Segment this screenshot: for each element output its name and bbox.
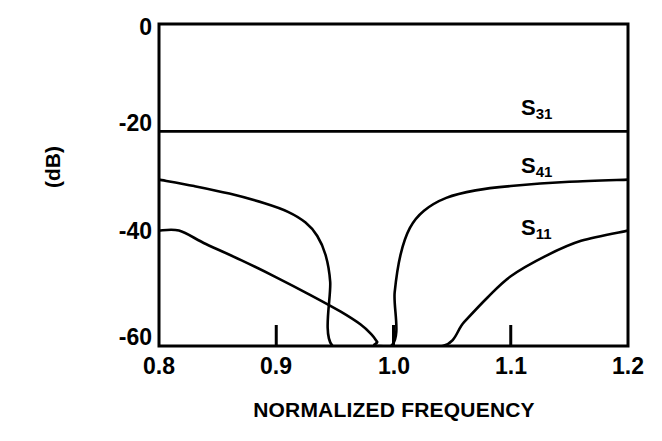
curve-label-s11: S11 bbox=[521, 217, 552, 239]
x-tick-label-1-0: 1.0 bbox=[364, 355, 424, 378]
y-tick-label-minus60: -60 bbox=[92, 326, 152, 349]
x-axis-title: NORMALIZED FREQUENCY bbox=[159, 398, 629, 422]
x-tick-label-0-8: 0.8 bbox=[129, 355, 189, 378]
curve-label-s11-base: S bbox=[521, 215, 536, 240]
y-axis-title: (dB) bbox=[41, 112, 65, 222]
x-tick-label-1-1: 1.1 bbox=[481, 355, 541, 378]
curve-label-s41-base: S bbox=[521, 153, 536, 178]
curve-label-s31-base: S bbox=[521, 95, 536, 120]
y-tick-label-minus40: -40 bbox=[92, 220, 152, 243]
curve-label-s31: S31 bbox=[521, 97, 552, 119]
curve-label-s31-sub: 31 bbox=[536, 105, 553, 122]
sparameter-chart-figure: 0 -20 -40 -60 0.8 0.9 1.0 1.1 1.2 NORMAL… bbox=[0, 0, 662, 441]
curve-label-s11-sub: 11 bbox=[536, 225, 552, 242]
x-tick-label-0-9: 0.9 bbox=[246, 355, 306, 378]
curve-label-s41-sub: 41 bbox=[536, 163, 553, 180]
x-tick-label-1-2: 1.2 bbox=[598, 355, 658, 378]
curve-label-s41: S41 bbox=[521, 155, 552, 177]
y-tick-label-minus20: -20 bbox=[92, 112, 152, 135]
series-curves bbox=[159, 131, 628, 353]
y-tick-label-0: 0 bbox=[92, 16, 152, 39]
